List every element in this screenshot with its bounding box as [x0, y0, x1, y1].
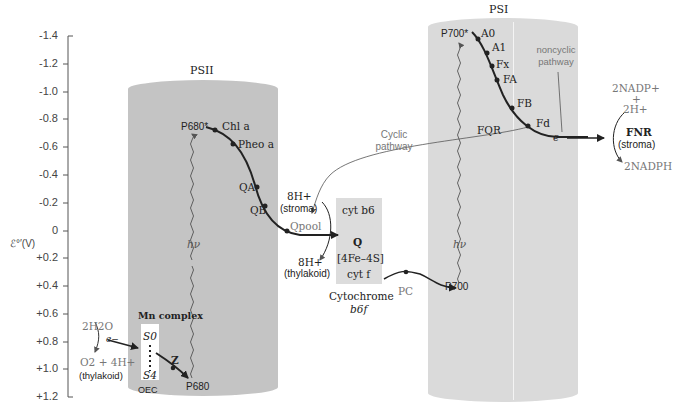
psii-title: PSII [190, 64, 214, 77]
tick-label: -1.4 [18, 29, 58, 41]
fx-label: Fx [496, 58, 509, 70]
tick-label: +1.2 [18, 390, 58, 402]
stroma-label: (stroma) [280, 203, 317, 214]
p680-label: P680 [186, 381, 209, 392]
z-label: Z [171, 354, 179, 366]
axis-label: ℰ°′(V) [10, 238, 35, 249]
noncyclic-pathway-label: noncyclic pathway [529, 44, 583, 68]
cyt-thylakoid-label: (thylakoid) [284, 268, 330, 279]
cyclic-pathway-label: Cyclic pathway [368, 129, 420, 153]
tick-label: +0.8 [18, 335, 58, 347]
fqr-label: FQR [477, 124, 501, 136]
qb-label: QB [250, 204, 266, 216]
s0-label: S0 [143, 330, 157, 342]
qa-label: QA [239, 181, 255, 193]
pheo-a-label: Pheo a [238, 138, 274, 150]
tick-label: -0.6 [18, 140, 58, 152]
water-label: 2H2O [82, 320, 113, 332]
psii-thylakoid-label: (thylakoid) [79, 370, 123, 381]
a1-label: A1 [492, 41, 506, 53]
psi-title: PSI [489, 3, 508, 16]
q-label: Q [353, 236, 362, 248]
o2-label: O2 + 4H+ [80, 356, 135, 368]
fnr-label: FNR [626, 126, 652, 138]
tick-label: +0.4 [18, 279, 58, 291]
tick-label: -1.0 [18, 85, 58, 97]
nadph-label: 2NADPH [624, 160, 672, 172]
mn-complex-label: Mn complex [138, 310, 203, 321]
stroma-h-label: 8H+ [287, 190, 312, 202]
p700-star-label: P700* [441, 28, 468, 39]
pc-label: PC [398, 285, 413, 297]
s4-label: S4 [143, 369, 157, 381]
chl-a-label: Chl a [222, 120, 250, 132]
tick-label: -0.2 [18, 196, 58, 208]
cyt-f-label: cyt f [347, 268, 370, 280]
tick-label: +0.2 [18, 251, 58, 263]
oec-label: OEC [138, 385, 158, 395]
cyt-b6-label: cyt b6 [342, 204, 375, 216]
qpool-label: Qpool [290, 220, 321, 232]
thylakoid-h-label: 8H+ [298, 256, 323, 268]
tick-label: +1.0 [18, 362, 58, 374]
fa-label: FA [503, 73, 517, 85]
fnr-stroma-label: (stroma) [618, 139, 655, 150]
tick-label: -0.4 [18, 168, 58, 180]
p680-star-label: P680* [181, 121, 208, 132]
a0-label: A0 [481, 27, 495, 39]
psi-hv-label: hν [453, 238, 466, 250]
p700-label: P700 [445, 281, 468, 292]
tick-label: +0.6 [18, 307, 58, 319]
psi-electron-label: e− [553, 131, 568, 143]
tick-label: 0 [18, 224, 58, 236]
cytochrome-name-line1: Cytochrome [329, 290, 394, 302]
tick-label: -1.2 [18, 57, 58, 69]
electron-label: e− [106, 334, 119, 344]
h-label: 2H+ [623, 103, 648, 115]
tick-label: -0.8 [18, 112, 58, 124]
fb-label: FB [517, 97, 532, 109]
fes-label: [4Fe–4S] [337, 252, 384, 264]
fd-label: Fd [536, 117, 550, 129]
psii-hv-label: hν [187, 238, 200, 250]
cytochrome-name-line2: b6f [350, 303, 367, 315]
